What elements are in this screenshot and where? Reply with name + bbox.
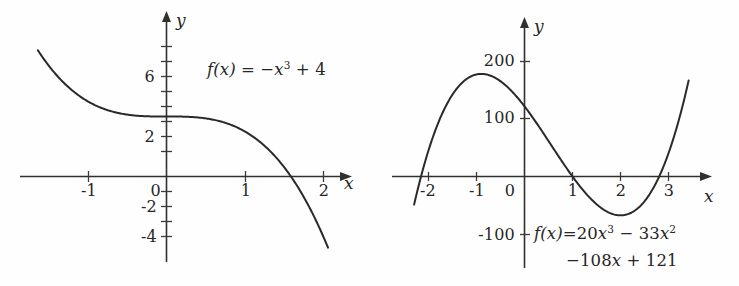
origin-label-right: 0	[505, 183, 515, 199]
plot-svg-left	[0, 0, 370, 286]
formula-right-base2: x	[660, 224, 669, 243]
formula-right-minus1: −	[619, 224, 633, 243]
formula-left-fx: f(x)	[207, 60, 236, 79]
formula-right-line2: −108x + 121	[566, 253, 678, 270]
y-tick-label-6-left: 6	[145, 69, 155, 85]
figure-container: y x -1 1 2 0 6 2 -2 -4 f(x) = −x3 + 4	[0, 0, 739, 286]
y-tick-label-minus4-left: -4	[141, 229, 157, 245]
formula-left: f(x) = −x3 + 4	[207, 62, 326, 79]
y-tick-label-100-right: 100	[484, 110, 515, 126]
formula-right-base1: x	[598, 224, 607, 243]
formula-right-constant: 121	[646, 251, 678, 270]
formula-right-fx: f(x)=	[534, 224, 577, 243]
x-axis-right	[392, 172, 712, 181]
formula-right-coef1: 20	[577, 224, 598, 243]
formula-right-coef2: 33	[639, 224, 660, 243]
x-tick-label-minus1-left: -1	[81, 183, 97, 199]
y-axis-right	[520, 17, 529, 268]
formula-left-plus: +	[296, 60, 310, 79]
function-curve-right	[414, 74, 689, 215]
formula-left-minus: −	[260, 60, 274, 79]
x-tick-label-1-left: 1	[241, 183, 251, 199]
formula-left-equals: =	[241, 60, 255, 79]
y-tick-label-2-left: 2	[145, 129, 155, 145]
x-tick-label-1-right: 1	[568, 183, 578, 199]
formula-right-exp2: 2	[669, 223, 676, 235]
y-tick-label-200-right: 200	[484, 53, 515, 69]
x-tick-label-2-left: 2	[319, 183, 329, 199]
x-axis-left	[20, 172, 352, 181]
chart-panel-right: y x -2 -1 1 2 3 0 200 100 -100 f(x)=20x3…	[370, 0, 739, 286]
x-axis-label-right: x	[704, 188, 714, 205]
formula-left-constant: 4	[315, 60, 326, 79]
formula-left-base: x	[274, 60, 283, 79]
formula-right-coef3: 108	[580, 251, 612, 270]
y-axis-label-left: y	[176, 12, 186, 29]
x-tick-label-minus1-right: -1	[469, 183, 485, 199]
formula-left-exponent: 3	[284, 59, 291, 71]
y-axis-label-right: y	[534, 18, 544, 35]
plot-svg-right	[370, 0, 739, 286]
x-tick-label-3-right: 3	[664, 183, 674, 199]
formula-right-line1: f(x)=20x3 − 33x2	[534, 226, 676, 243]
x-axis-label-left: x	[344, 175, 354, 192]
function-curve-left	[38, 50, 328, 247]
formula-right-base3: x	[612, 251, 621, 270]
x-tick-label-minus2-right: -2	[420, 183, 436, 199]
formula-right-minus2: −	[566, 251, 580, 270]
x-tick-label-2-right: 2	[616, 183, 626, 199]
y-tick-label-minus2-left: -2	[141, 199, 157, 215]
chart-panel-left: y x -1 1 2 0 6 2 -2 -4 f(x) = −x3 + 4	[0, 0, 370, 286]
y-tick-label-minus100-right: -100	[478, 227, 515, 243]
formula-right-plus: +	[627, 251, 641, 270]
